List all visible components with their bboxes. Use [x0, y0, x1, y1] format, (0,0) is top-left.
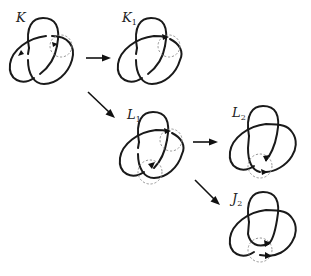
- label-L2: L2: [231, 105, 246, 122]
- knot-L1: [120, 112, 184, 184]
- knot-K1: [118, 18, 182, 84]
- label-K: K: [15, 10, 27, 25]
- arrow-K-to-K1: [86, 55, 111, 62]
- knot-transformation-diagram: K K1 L1 L2: [0, 0, 311, 276]
- label-J2: J2: [229, 191, 242, 208]
- arrow-K-to-L1: [88, 92, 115, 118]
- label-K1: K1: [121, 10, 137, 27]
- arrow-L1-to-J2: [195, 180, 220, 205]
- knot-K: [10, 18, 73, 84]
- arrow-L1-to-L2: [193, 139, 218, 146]
- label-L1: L1: [126, 107, 141, 124]
